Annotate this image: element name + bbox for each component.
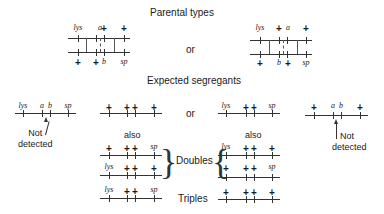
not-detected-left: Not detected	[18, 128, 53, 150]
gene-label: +	[276, 24, 282, 33]
gene-label: +	[121, 24, 127, 33]
gene-label: b	[48, 102, 52, 110]
gene-label: lys	[105, 186, 114, 194]
triples-label: Triples	[178, 193, 208, 204]
or-label-mid: or	[186, 108, 195, 119]
gene-label: +	[251, 164, 257, 173]
gene-label: +	[223, 164, 229, 173]
not-label: Not	[332, 131, 367, 142]
gene-label: b	[277, 59, 281, 67]
gene-label: sp	[268, 163, 275, 171]
gene-label: a	[286, 24, 290, 32]
also-label-left: also	[124, 130, 141, 140]
gene-label: b	[339, 102, 343, 110]
gene-label: a	[331, 102, 335, 110]
gene-label: lys	[222, 143, 231, 151]
parental-types-heading: Parental types	[150, 7, 214, 18]
gene-label: +	[93, 58, 99, 67]
not-label: Not	[18, 128, 53, 139]
gene-label: +	[303, 24, 309, 33]
gene-label: +	[101, 24, 107, 33]
gene-label: +	[243, 164, 249, 173]
gene-label: +	[75, 58, 81, 67]
or-label-top: or	[186, 44, 195, 55]
gene-label: a	[40, 102, 44, 110]
gene-label: +	[285, 59, 291, 68]
right-brace-icon: }	[160, 144, 177, 180]
gene-label: lys	[74, 24, 83, 32]
not-detected-right: Not detected	[332, 131, 367, 153]
gene-label: +	[357, 103, 363, 112]
also-label-right: also	[245, 130, 262, 140]
gene-label: sp	[120, 58, 127, 66]
detected-label: detected	[332, 142, 367, 153]
detected-label: detected	[18, 139, 53, 150]
gene-label: +	[257, 59, 263, 68]
gene-label: lys	[19, 102, 28, 110]
gene-label: sp	[150, 143, 157, 151]
gene-label: sp	[150, 186, 157, 194]
gene-label: sp	[268, 102, 275, 110]
gene-label: lys	[256, 24, 265, 32]
gene-label: lys	[222, 102, 231, 110]
doubles-label: Doubles	[176, 155, 213, 166]
gene-label: lys	[105, 163, 114, 171]
gene-label: sp	[64, 102, 71, 110]
gene-label: b	[102, 58, 106, 66]
gene-label: +	[311, 103, 317, 112]
expected-segregants-heading: Expected segregants	[147, 75, 241, 86]
gene-label: sp	[302, 59, 309, 67]
